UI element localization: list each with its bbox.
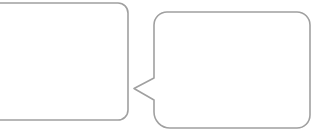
left-speech-bubble bbox=[0, 3, 128, 120]
right-speech-bubble-with-tail bbox=[134, 12, 310, 128]
speech-bubbles-graphic bbox=[0, 0, 324, 139]
bubbles-canvas bbox=[0, 0, 324, 139]
